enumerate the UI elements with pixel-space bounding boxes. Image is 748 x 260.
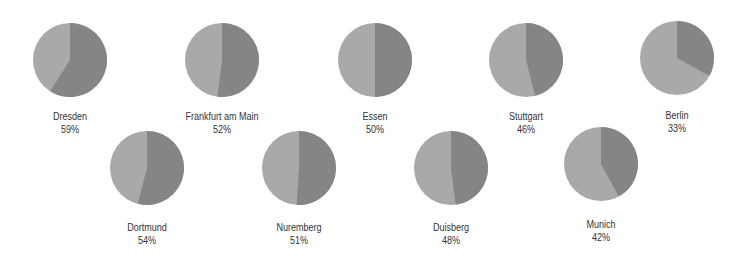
pie-nuremberg: Nuremberg 51% — [239, 130, 359, 247]
city-label: Dortmund — [98, 221, 196, 234]
value-slice — [297, 131, 336, 205]
pie-essen: Essen 50% — [315, 22, 435, 136]
pie-graphic — [337, 22, 413, 98]
pie-duisberg: Duisberg 48% — [391, 130, 511, 247]
city-label: Stuttgart — [477, 110, 575, 123]
percent-label: 54% — [98, 234, 196, 247]
city-label: Munich — [552, 218, 650, 231]
city-label: Essen — [326, 110, 424, 123]
pie-stuttgart: Stuttgart 46% — [466, 22, 586, 136]
pie-graphic — [184, 22, 260, 98]
city-label: Berlin — [628, 109, 726, 122]
value-slice — [217, 23, 259, 97]
pie-graphic — [488, 22, 564, 98]
pie-graphic — [639, 20, 715, 96]
pie-graphic — [413, 130, 489, 206]
pie-graphic — [109, 130, 185, 206]
percent-label: 51% — [250, 234, 348, 247]
percent-label: 48% — [402, 234, 500, 247]
pie-dresden: Dresden 59% — [10, 22, 130, 136]
pie-munich: Munich 42% — [541, 126, 661, 244]
pie-small-multiples: Dresden 59% Frankfurt am Main 52% Essen … — [0, 0, 748, 260]
percent-label: 42% — [552, 231, 650, 244]
city-label: Dresden — [21, 110, 119, 123]
pie-graphic — [563, 126, 639, 202]
pie-frankfurt-am-main: Frankfurt am Main 52% — [162, 22, 282, 136]
city-label: Nuremberg — [250, 221, 348, 234]
pie-graphic — [261, 130, 337, 206]
pie-berlin: Berlin 33% — [617, 20, 737, 135]
pie-dortmund: Dortmund 54% — [87, 130, 207, 247]
pie-graphic — [32, 22, 108, 98]
value-slice — [375, 23, 412, 97]
city-label: Duisberg — [402, 221, 500, 234]
city-label: Frankfurt am Main — [173, 110, 271, 123]
value-slice — [451, 131, 488, 205]
